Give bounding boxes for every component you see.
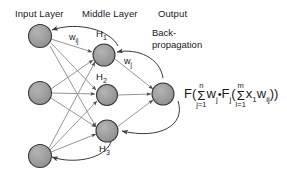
backprop-line-2: propagation bbox=[152, 39, 202, 50]
label-h3-text: H bbox=[99, 143, 106, 154]
formula-sum2-lower-limit: l=1 bbox=[236, 101, 246, 109]
label-h2: H2 bbox=[96, 71, 107, 84]
label-h3-subscript: 3 bbox=[106, 149, 110, 156]
label-h2-text: H bbox=[96, 71, 103, 82]
formula-sum1-lower-limit: j=1 bbox=[196, 101, 206, 109]
formula-wj: w bbox=[207, 86, 216, 101]
header-input-layer: Input Layer bbox=[15, 8, 64, 19]
label-h1: H1 bbox=[96, 28, 107, 41]
formula-sum-1: nΣj=1 bbox=[196, 82, 206, 108]
label-wij-subscript: ij bbox=[76, 37, 79, 44]
formula-sum-2: mΣl=1 bbox=[236, 82, 246, 108]
label-h1-subscript: 1 bbox=[103, 34, 107, 41]
node-hidden-h3 bbox=[96, 120, 118, 142]
label-h3: H3 bbox=[99, 143, 110, 156]
node-output-1 bbox=[152, 83, 174, 105]
header-output: Output bbox=[158, 8, 187, 19]
node-input-1 bbox=[29, 25, 52, 48]
label-weight-wij: wij bbox=[69, 32, 78, 44]
label-wj-subscript: j bbox=[131, 61, 132, 68]
node-input-2 bbox=[29, 82, 52, 105]
node-hidden-h2 bbox=[97, 85, 118, 106]
label-backpropagation: Back- propagation bbox=[152, 27, 202, 50]
neural-network-diagram: Input Layer Middle Layer Output H1 H2 H3… bbox=[0, 0, 287, 177]
label-h1-text: H bbox=[96, 28, 103, 39]
backprop-line-1: Back- bbox=[152, 27, 176, 38]
formula-close-parens: )) bbox=[270, 86, 279, 101]
label-h2-subscript: 2 bbox=[103, 77, 107, 84]
header-middle-layer: Middle Layer bbox=[82, 8, 138, 19]
node-hidden-h1 bbox=[93, 44, 115, 66]
formula-wij: w bbox=[257, 86, 266, 101]
node-input-3 bbox=[29, 145, 52, 168]
output-formula: F(nΣj=1wj•Fj(mΣl=1x1wij)) bbox=[184, 82, 278, 108]
label-weight-wj: wj bbox=[124, 56, 132, 68]
formula-f-outer: F( bbox=[184, 86, 196, 101]
